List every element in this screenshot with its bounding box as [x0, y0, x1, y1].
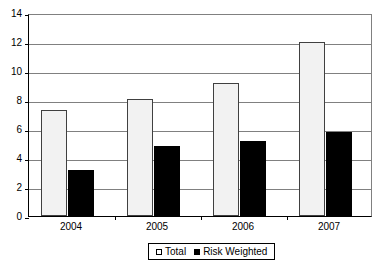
bar-risk-weighted-2007 — [326, 132, 352, 216]
legend-label: Risk Weighted — [203, 246, 267, 257]
legend-label: Total — [165, 246, 186, 257]
y-axis-tick — [25, 218, 29, 219]
chart-legend: TotalRisk Weighted — [148, 243, 275, 260]
bar-total-2006 — [213, 83, 239, 216]
bar-chart: 02468101214 2004200520062007 TotalRisk W… — [0, 0, 378, 265]
y-axis-label: 6 — [16, 125, 22, 135]
legend-item-risk-weighted: Risk Weighted — [194, 246, 267, 257]
legend-swatch-risk-icon — [194, 249, 200, 255]
x-axis-tick — [115, 216, 116, 220]
y-axis: 02468101214 — [0, 0, 22, 265]
x-axis-label-2004: 2004 — [28, 221, 114, 232]
bar-group — [287, 13, 373, 216]
x-axis-label-2006: 2006 — [200, 221, 286, 232]
legend-swatch-total-icon — [156, 249, 162, 255]
y-axis-label: 14 — [11, 9, 22, 19]
legend-item-total: Total — [156, 246, 186, 257]
bar-total-2004 — [41, 110, 67, 216]
bar-group — [29, 13, 115, 216]
bar-group — [201, 13, 287, 216]
x-axis-label-2005: 2005 — [114, 221, 200, 232]
x-axis-label-2007: 2007 — [286, 221, 372, 232]
plot-area — [28, 14, 372, 217]
bar-total-2005 — [127, 99, 153, 216]
bar-total-2007 — [299, 42, 325, 216]
y-axis-label: 2 — [16, 183, 22, 193]
x-axis-tick — [201, 216, 202, 220]
bar-risk-weighted-2004 — [68, 170, 94, 216]
y-axis-label: 8 — [16, 96, 22, 106]
y-axis-label: 10 — [11, 67, 22, 77]
y-axis-label: 0 — [16, 212, 22, 222]
y-axis-label: 12 — [11, 38, 22, 48]
bar-risk-weighted-2005 — [154, 146, 180, 216]
x-axis-tick — [287, 216, 288, 220]
bar-group — [115, 13, 201, 216]
bar-risk-weighted-2006 — [240, 141, 266, 216]
y-axis-label: 4 — [16, 154, 22, 164]
